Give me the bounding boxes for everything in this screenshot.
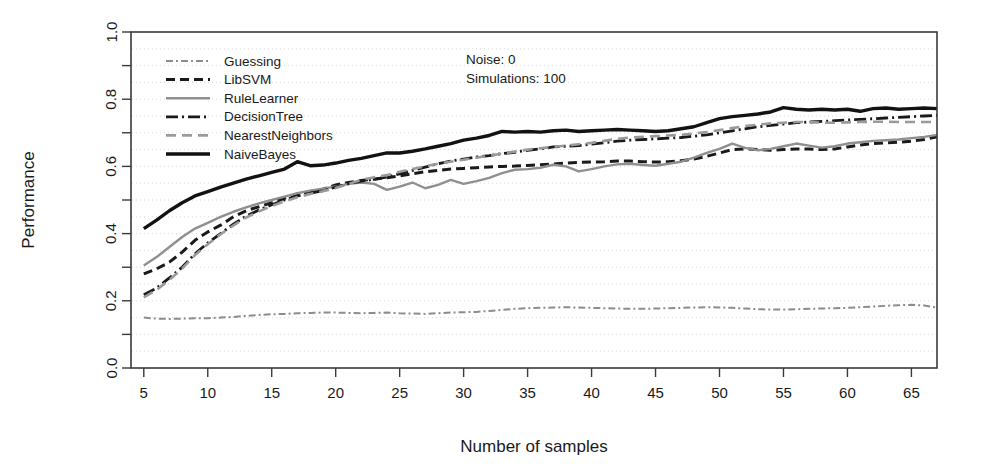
legend-label-libsvm: LibSVM (224, 72, 271, 87)
x-tick-label: 15 (263, 384, 280, 401)
x-tick-label: 35 (519, 384, 536, 401)
y-tick-label: 0.2 (103, 290, 120, 311)
x-tick-label: 10 (199, 384, 216, 401)
legend-label-rulelearner: RuleLearner (224, 91, 299, 106)
x-tick-label: 5 (140, 384, 148, 401)
x-tick-label: 65 (903, 384, 920, 401)
legend-label-nearestneighbors: NearestNeighbors (224, 128, 333, 143)
chart-svg: 5101520253035404550556065 0.00.20.40.60.… (0, 0, 982, 473)
x-tick-label: 60 (839, 384, 856, 401)
x-tick-label: 40 (583, 384, 600, 401)
y-tick-label: 0.6 (103, 156, 120, 177)
legend-label-guessing: Guessing (224, 54, 281, 69)
y-tick-label: 1.0 (103, 22, 120, 43)
y-axis-label: Performance (19, 151, 38, 248)
x-tick-label: 50 (711, 384, 728, 401)
x-tick-label: 45 (647, 384, 664, 401)
legend-label-decisiontree: DecisionTree (224, 109, 303, 124)
x-tick-label: 30 (455, 384, 472, 401)
y-tick-label: 0.8 (103, 89, 120, 110)
annotation-noise: Noise: 0 (466, 52, 516, 67)
x-tick-label: 55 (775, 384, 792, 401)
x-axis-label: Number of samples (460, 437, 607, 456)
x-tick-label: 20 (327, 384, 344, 401)
x-tick-label: 25 (391, 384, 408, 401)
legend-label-naivebayes: NaiveBayes (224, 147, 296, 162)
annotation-simulations: Simulations: 100 (466, 71, 566, 86)
performance-chart: 5101520253035404550556065 0.00.20.40.60.… (0, 0, 982, 473)
y-tick-label: 0.4 (103, 223, 120, 244)
y-tick-label: 0.0 (103, 358, 120, 379)
